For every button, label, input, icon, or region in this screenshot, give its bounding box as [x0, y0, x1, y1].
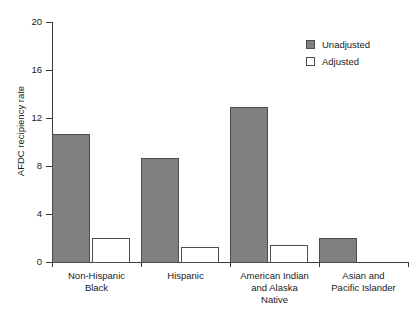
x-tick-mark: [408, 262, 409, 267]
x-axis-category-label: American Indianand AlaskaNative: [230, 270, 319, 306]
bar-chart-figure: AFDC recipiency rate 048121620 Non-Hispa…: [0, 0, 420, 314]
y-axis-title: AFDC recipiency rate: [12, 0, 30, 262]
x-axis-category-label: Hispanic: [141, 270, 230, 282]
y-tick-mark: [46, 70, 52, 71]
x-axis-category-label-line: Black: [52, 282, 141, 294]
x-axis-category-label-line: Non-Hispanic: [52, 270, 141, 282]
bar-unadjusted: [52, 134, 90, 263]
x-axis-category-label-line: Native: [230, 294, 319, 306]
legend-swatch-unadjusted: [306, 40, 315, 49]
x-axis-category-label-line: Hispanic: [141, 270, 230, 282]
x-axis-category-label-line: American Indian: [230, 270, 319, 282]
bar-unadjusted: [319, 238, 357, 263]
bar-adjusted: [181, 247, 219, 263]
bar-adjusted: [270, 245, 308, 263]
y-tick-label: 20: [16, 17, 42, 27]
legend-swatch-adjusted: [306, 57, 315, 66]
legend-label: Unadjusted: [322, 39, 370, 51]
y-tick-label: 12: [16, 113, 42, 123]
y-tick-label: 0: [16, 257, 42, 267]
y-tick-label: 4: [16, 209, 42, 219]
bar-unadjusted: [141, 158, 179, 263]
x-axis-category-label: Asian andPacific Islander: [319, 270, 408, 294]
chart-legend: UnadjustedAdjusted: [306, 36, 370, 70]
y-tick-mark: [46, 118, 52, 119]
legend-label: Adjusted: [322, 56, 359, 68]
y-tick-label: 16: [16, 65, 42, 75]
bar-adjusted: [92, 238, 130, 263]
x-axis-category-label-line: and Alaska: [230, 282, 319, 294]
legend-item-unadjusted: Unadjusted: [306, 36, 370, 53]
x-axis-category-label-line: Pacific Islander: [319, 282, 408, 294]
legend-item-adjusted: Adjusted: [306, 53, 370, 70]
x-axis-category-label-line: Asian and: [319, 270, 408, 282]
x-axis-category-label: Non-HispanicBlack: [52, 270, 141, 294]
y-tick-mark: [46, 22, 52, 23]
bar-unadjusted: [230, 107, 268, 263]
y-tick-label: 8: [16, 161, 42, 171]
